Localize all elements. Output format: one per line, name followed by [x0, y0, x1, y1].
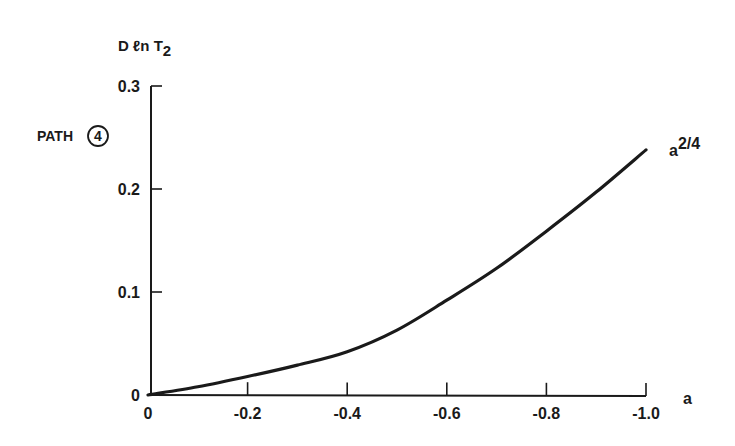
y-tick-label: 0.2	[118, 181, 140, 198]
series-label: a2/4	[669, 135, 700, 159]
y-tick-label: 0	[131, 387, 140, 404]
x-axis-line	[148, 395, 646, 396]
x-tick-label: 0	[144, 405, 153, 422]
data-line	[148, 150, 646, 395]
path-label: PATH 4	[37, 126, 108, 146]
chart: 00.10.20.30-0.2-0.4-0.6-0.8-1.0 D ℓn T2 …	[0, 0, 735, 446]
x-tick-label: -0.4	[333, 405, 361, 422]
x-tick-label: -1.0	[632, 405, 660, 422]
y-tick-label: 0.3	[118, 78, 140, 95]
y-axis-label-main: D ℓn T	[118, 37, 163, 54]
ticks	[151, 86, 646, 396]
y-axis-label: D ℓn T2	[118, 37, 171, 59]
x-axis-label: a	[683, 390, 692, 407]
x-tick-label: -0.2	[234, 405, 262, 422]
tick-labels: 00.10.20.30-0.2-0.4-0.6-0.8-1.0	[118, 78, 660, 422]
axes	[148, 86, 646, 396]
x-tick-label: -0.6	[433, 405, 461, 422]
y-axis-label-subscript: 2	[163, 42, 171, 59]
path-number: 4	[94, 128, 102, 144]
series-label-base: a	[669, 142, 678, 159]
x-tick-label: -0.8	[533, 405, 561, 422]
series-label-superscript: 2/4	[678, 135, 700, 152]
path-label-text: PATH	[37, 128, 73, 144]
y-tick-label: 0.1	[118, 284, 140, 301]
